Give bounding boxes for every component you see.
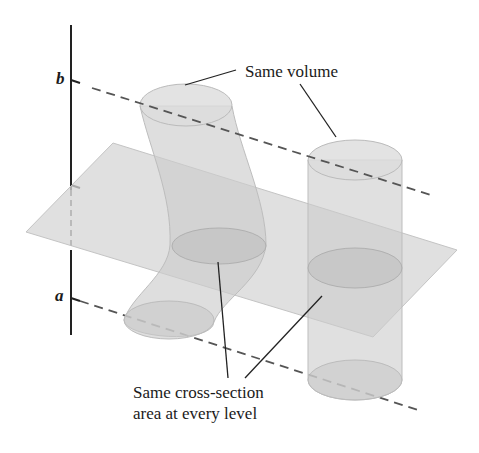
slanted-cylinder-top xyxy=(140,84,232,126)
tick-b xyxy=(71,80,80,83)
tick-a xyxy=(71,298,80,301)
axis-label-b: b xyxy=(56,69,65,89)
slanted-cylinder-bottom xyxy=(124,301,214,339)
annotation-same-volume: Same volume xyxy=(245,61,338,82)
annotation-cross-section-line2: area at every level xyxy=(133,403,257,424)
right-cylinder-bottom xyxy=(308,360,402,400)
annotation-cross-section-line1: Same cross-section xyxy=(133,382,264,403)
axis-label-a: a xyxy=(55,286,64,306)
right-cylinder-cross-section xyxy=(308,248,402,288)
leader-same-volume-right xyxy=(300,84,336,137)
leader-same-volume-left xyxy=(185,70,236,85)
slanted-cylinder-cross-section xyxy=(172,228,266,264)
